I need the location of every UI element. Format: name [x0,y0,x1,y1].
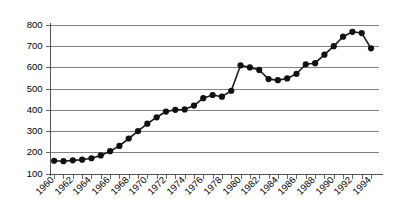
data-point [340,34,346,40]
x-axis-tick-label: 1994 [350,174,373,197]
data-point [312,60,318,66]
data-point [88,155,94,161]
data-point [275,77,281,83]
data-point [135,128,141,134]
y-axis-tick-label: 300 [27,125,43,136]
x-axis-tick-label: 1980 [220,174,243,197]
y-axis-tick-label: 200 [27,146,43,157]
x-axis-tick-label: 1972 [145,174,168,197]
data-point [219,94,225,100]
y-axis-tick-label: 500 [27,83,43,94]
x-axis-tick-label: 1990 [313,174,336,197]
x-axis-tick-label: 1984 [257,174,280,197]
data-point [70,157,76,163]
data-series-points [51,29,374,165]
y-axis-tick-labels: 100200300400500600700800 [27,19,43,179]
y-axis-tick-marks [46,26,50,175]
data-point [172,107,178,113]
y-axis-tick-label: 400 [27,104,43,115]
data-point [368,45,374,51]
data-point [331,43,337,49]
x-axis-tick-label: 1974 [164,174,187,197]
y-axis-tick-label: 800 [27,19,43,30]
data-point [126,135,132,141]
data-point [200,95,206,101]
chart-plot: 100200300400500600700800 196019621964196… [0,0,395,224]
x-axis-tick-label: 1962 [52,174,75,197]
data-point [107,148,113,154]
data-point [349,29,355,35]
y-axis-tick-label: 100 [27,168,43,179]
data-point [163,108,169,114]
data-point [228,88,234,94]
data-point [51,158,57,164]
data-point [116,143,122,149]
data-point [303,61,309,67]
data-point [60,158,66,164]
y-axis-tick-label: 700 [27,40,43,51]
data-point [284,75,290,81]
data-point [256,67,262,73]
data-point [247,64,253,70]
data-point [265,76,271,82]
x-axis-tick-label: 1988 [294,174,317,197]
data-point [321,52,327,58]
data-point [79,157,85,163]
data-point [210,92,216,98]
data-point [293,71,299,77]
data-point [144,121,150,127]
x-axis-tick-label: 1966 [89,174,112,197]
x-axis-tick-label: 1978 [201,174,224,197]
gridlines [50,26,379,175]
data-point [359,30,365,36]
data-point [182,106,188,112]
data-point [154,114,160,120]
y-axis-tick-label: 600 [27,61,43,72]
chart-container: 100200300400500600700800 196019621964196… [0,0,395,224]
x-axis-tick-label: 1968 [108,174,131,197]
data-point [191,103,197,109]
data-point [237,62,243,68]
data-point [98,152,104,158]
